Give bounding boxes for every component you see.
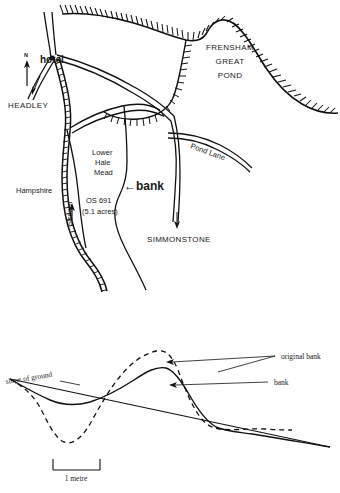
field-label-line3: Mead: [94, 168, 113, 177]
frensham-label-line1: FRENSHAM: [206, 43, 254, 52]
frensham-label-line2: GREAT: [216, 57, 245, 66]
frensham-label-line3: POND: [218, 71, 243, 80]
simmonstone-label: SIMMONSTONE: [147, 235, 211, 244]
os-parcel-label: OS 691: [86, 196, 111, 205]
figure-canvas: N hotel HEADLEY FRENSHAM GREAT POND Pond…: [0, 0, 340, 493]
scale-bar: [53, 459, 100, 470]
field-label-line2: Hale: [95, 158, 110, 167]
os-area-label: (5.1 acres): [82, 207, 118, 216]
field-label-line1: Lower: [92, 148, 113, 157]
figure-root: N hotel HEADLEY FRENSHAM GREAT POND Pond…: [0, 0, 340, 493]
section-leader-original-bank: [166, 356, 275, 372]
hampshire-label: Hampshire: [16, 186, 52, 195]
compass-north-label: N: [24, 52, 28, 58]
bank-label: ←bank: [124, 179, 164, 193]
scale-bar-label: 1 metre: [65, 474, 88, 483]
frensham-great-pond-shoreline: [60, 5, 338, 126]
stream-label: Stream: [65, 202, 74, 226]
shoreline-hatching: [60, 5, 335, 113]
hotel-label: hotel: [40, 54, 64, 65]
section-leader-slope-of-ground: [60, 381, 80, 385]
pond-lane-label: Pond Lane: [189, 141, 226, 162]
section-original-bank-profile: [10, 351, 292, 443]
section-bank-label: bank: [274, 378, 289, 387]
section-original-bank-label: original bank: [281, 352, 321, 361]
headley-label: HEADLEY: [8, 101, 48, 110]
north-arrow: [24, 60, 30, 86]
